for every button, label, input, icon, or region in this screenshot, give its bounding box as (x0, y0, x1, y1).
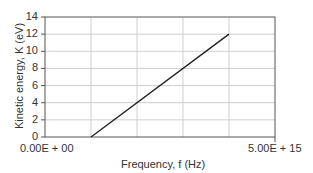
x-max-label: 5.00E + 15 (248, 142, 302, 154)
x-axis-title: Frequency, f (Hz) (121, 158, 205, 170)
x-min-label: 0.00E + 00 (20, 142, 74, 154)
y-axis-title: Kinetic energy, K (eV) (13, 11, 25, 141)
